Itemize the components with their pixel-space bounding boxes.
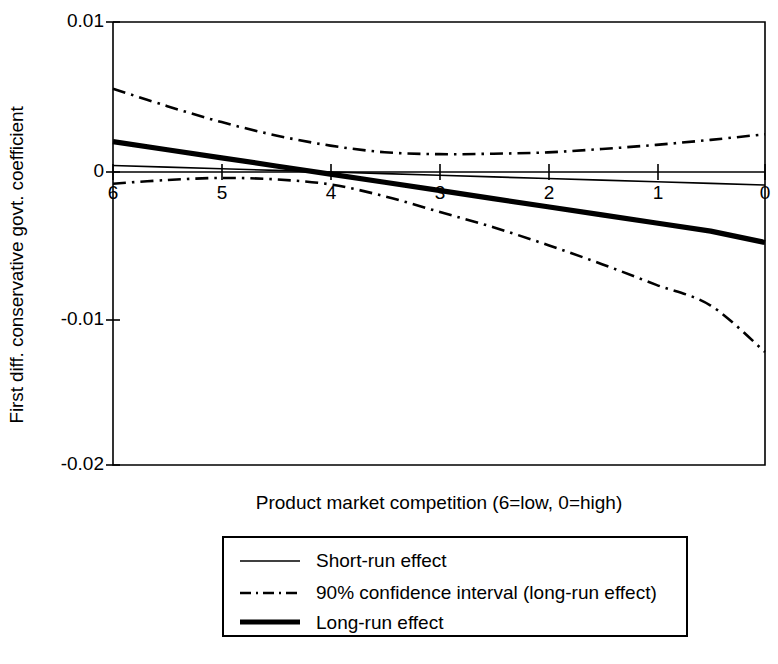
confidence-interval-line-upper bbox=[113, 89, 765, 154]
legend-swatch-dash-dot bbox=[236, 578, 304, 608]
long-run-effect-line bbox=[113, 142, 765, 243]
plot-frame bbox=[113, 22, 765, 465]
short-run-effect-line bbox=[113, 166, 765, 185]
legend-item-long-run: Long-run effect bbox=[224, 608, 686, 638]
confidence-interval-line-lower bbox=[113, 178, 765, 352]
chart-figure: First diff. conservative govt. coefficie… bbox=[0, 0, 778, 664]
legend-item-confidence-interval: 90% confidence interval (long-run effect… bbox=[224, 578, 686, 608]
legend-label: Short-run effect bbox=[316, 546, 447, 576]
data-series-layer bbox=[113, 89, 765, 352]
legend-swatch-thin-solid bbox=[236, 546, 304, 576]
legend-label: Long-run effect bbox=[316, 608, 443, 638]
legend-item-short-run: Short-run effect bbox=[224, 546, 686, 576]
chart-legend: Short-run effect 90% confidence interval… bbox=[222, 536, 688, 637]
legend-swatch-thick-solid bbox=[236, 608, 304, 638]
legend-label: 90% confidence interval (long-run effect… bbox=[316, 578, 657, 608]
